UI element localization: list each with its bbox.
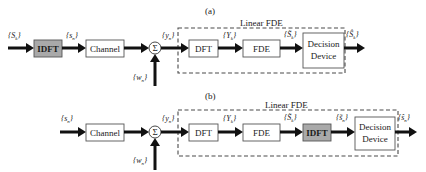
arrowhead-icon [235, 127, 243, 137]
signal-label-yn-b: {yn} [162, 114, 175, 124]
signal-label-Stilde-a: {S̃k} [284, 30, 297, 40]
decision-label-line1-a: Decision [308, 39, 340, 49]
signal-label-sn-a: {sn} [66, 31, 79, 41]
signal-label-sn-b: {sn} [61, 114, 74, 124]
arrowhead-icon [181, 127, 189, 137]
diagram-b: (b) Linear FDE {sn} Channel Σ {wn} {yn} … [60, 91, 417, 170]
signal-label-Shat-a: {Ŝk} [346, 29, 359, 40]
arrowhead-icon [26, 43, 34, 53]
idft-label-a: IDFT [37, 44, 59, 54]
channel-label-a: Channel [90, 44, 120, 54]
arrowhead-icon [357, 43, 365, 53]
arrowhead-icon [295, 127, 303, 137]
signal-label-stilde-b: {s̃n} [336, 113, 349, 123]
linear-fde-label-b: Linear FDE [265, 100, 308, 110]
signal-label-Yk-b: {Yk} [223, 114, 237, 124]
signal-label-yn-a: {yn} [162, 31, 175, 41]
fde-block-diagrams: (a) Linear FDE {Sk} IDFT {sn} Channel Σ … [0, 0, 426, 172]
arrowhead-icon [150, 138, 160, 146]
signal-label-Yk-a: {Yk} [223, 31, 237, 41]
signal-label-Stilde-b: {S̃k} [284, 113, 297, 123]
arrowhead-icon [78, 43, 86, 53]
diagram-a: (a) Linear FDE {Sk} IDFT {sn} Channel Σ … [8, 6, 365, 86]
arrowhead-icon [347, 127, 355, 137]
fde-label-a: FDE [253, 44, 271, 54]
arrowhead-icon [78, 127, 86, 137]
arrowhead-icon [181, 43, 189, 53]
signal-label-shat-b: {ŝn} [398, 113, 411, 123]
dft-label-b: DFT [195, 128, 213, 138]
decision-label-line2-a: Device [311, 51, 336, 61]
arrowhead-icon [235, 43, 243, 53]
decision-label-line1-b: Decision [359, 122, 391, 132]
decision-label-line2-b: Device [362, 134, 387, 144]
fde-label-b: FDE [253, 128, 271, 138]
arrowhead-icon [150, 54, 160, 62]
arrowhead-icon [295, 43, 303, 53]
svg-text:{Sk}: {Sk} [8, 31, 21, 41]
caption-b: (b) [205, 91, 216, 101]
idft-label-b: IDFT [306, 128, 328, 138]
signal-label-wn-b: {wn} [133, 156, 148, 166]
linear-fde-label-a: Linear FDE [240, 18, 283, 28]
signal-label-input-a: {Sk} [8, 31, 21, 41]
sigma-icon: Σ [152, 43, 157, 53]
arrowhead-icon [409, 127, 417, 137]
arrowhead-icon [141, 43, 149, 53]
channel-label-b: Channel [90, 128, 120, 138]
arrowhead-icon [141, 127, 149, 137]
sigma-icon: Σ [152, 127, 157, 137]
caption-a: (a) [205, 6, 215, 16]
signal-label-wn-a: {wn} [133, 73, 148, 83]
dft-label-a: DFT [195, 44, 213, 54]
